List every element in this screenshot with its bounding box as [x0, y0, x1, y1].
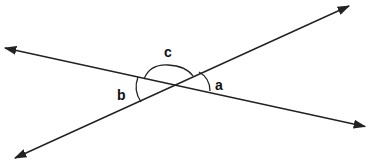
- angle-label-b: b: [117, 87, 126, 103]
- angle-b-arc: [136, 77, 141, 102]
- angle-c-arc: [144, 65, 193, 79]
- angle-label-a: a: [215, 77, 223, 93]
- line-2: [15, 6, 349, 158]
- line-1: [5, 48, 365, 127]
- angle-diagram: c a b: [0, 0, 370, 165]
- angle-label-c: c: [164, 44, 172, 60]
- angle-a-arc: [199, 72, 210, 91]
